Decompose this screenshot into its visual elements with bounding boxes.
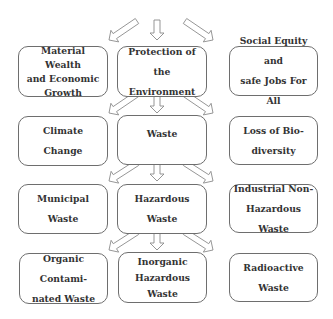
arrow-top-to-protection-environment (150, 20, 164, 40)
node-industrial-non-hazardous: Industrial Non- Hazardous Waste (229, 184, 318, 233)
node-loss-biodiversity: Loss of Bio- diversity (229, 116, 318, 165)
node-inorganic-hazardous: Inorganic Hazardous Waste (118, 252, 207, 303)
node-hazardous-waste: Hazardous Waste (117, 184, 207, 234)
arrow-top-to-social-equity (183, 19, 213, 42)
node-material-wealth: Material Wealth and Economic Growth (18, 46, 108, 97)
node-protection-environment: Protection of the Environment (117, 46, 207, 97)
arrow-top-to-material-wealth (109, 19, 139, 42)
node-municipal-waste: Municipal Waste (18, 184, 108, 234)
node-radioactive-waste: Radioactive Waste (229, 253, 318, 302)
diagram-canvas: Material Wealth and Economic Growth Prot… (0, 0, 333, 319)
node-organic-contaminated: Organic Contami- nated Waste (19, 253, 108, 304)
node-waste: Waste (117, 115, 207, 165)
node-social-equity: Social Equity and safe Jobs For All (229, 46, 318, 96)
node-climate-change: Climate Change (18, 116, 108, 166)
